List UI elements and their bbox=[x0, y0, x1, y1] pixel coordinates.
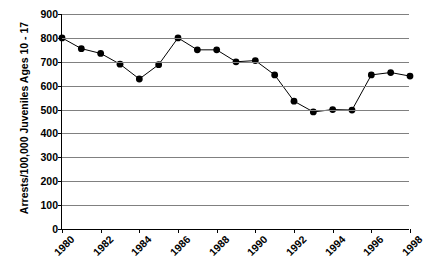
y-tick-label-800: 800 bbox=[22, 32, 58, 44]
x-tick-label-1998: 1998 bbox=[399, 233, 424, 258]
data-point-1982 bbox=[97, 50, 104, 57]
data-point-1981 bbox=[78, 45, 85, 52]
gridline-300 bbox=[62, 157, 409, 158]
gridline-800 bbox=[62, 38, 409, 39]
y-tick-label-700: 700 bbox=[22, 56, 58, 68]
data-point-1990 bbox=[252, 57, 259, 64]
y-tick-label-400: 400 bbox=[22, 127, 58, 139]
x-tick-label-1984: 1984 bbox=[129, 233, 154, 258]
x-tick-label-1982: 1982 bbox=[90, 233, 115, 258]
series-markers bbox=[59, 34, 414, 115]
x-tick-label-1988: 1988 bbox=[206, 233, 231, 258]
data-point-1997 bbox=[387, 69, 394, 76]
data-point-1988 bbox=[213, 46, 220, 53]
gridline-700 bbox=[62, 62, 409, 63]
x-tick-label-1994: 1994 bbox=[322, 233, 347, 258]
gridline-400 bbox=[62, 133, 409, 134]
y-tickmark-200 bbox=[58, 181, 62, 182]
data-point-1984 bbox=[136, 76, 143, 83]
y-tickmark-100 bbox=[58, 205, 62, 206]
data-point-1987 bbox=[194, 46, 201, 53]
y-tick-label-0: 0 bbox=[22, 223, 58, 235]
gridline-500 bbox=[62, 110, 409, 111]
x-tick-label-1986: 1986 bbox=[167, 233, 192, 258]
y-tick-label-300: 300 bbox=[22, 151, 58, 163]
data-point-1991 bbox=[271, 72, 278, 79]
series-line-juvenile-arrest-rate bbox=[62, 14, 410, 229]
y-axis-tick-labels: 9008007006005004003002001000 bbox=[20, 0, 58, 279]
gridline-200 bbox=[62, 181, 409, 182]
y-tickmark-600 bbox=[58, 86, 62, 87]
y-tickmark-800 bbox=[58, 38, 62, 39]
y-tickmark-500 bbox=[58, 110, 62, 111]
x-tick-label-1996: 1996 bbox=[361, 233, 386, 258]
y-tickmark-900 bbox=[58, 14, 62, 15]
y-tickmark-700 bbox=[58, 62, 62, 63]
y-tick-label-500: 500 bbox=[22, 104, 58, 116]
y-tick-label-900: 900 bbox=[22, 8, 58, 20]
gridline-600 bbox=[62, 86, 409, 87]
y-tickmark-400 bbox=[58, 133, 62, 134]
plot-area bbox=[61, 14, 409, 229]
y-tickmark-300 bbox=[58, 157, 62, 158]
gridline-900 bbox=[62, 14, 409, 15]
gridline-100 bbox=[62, 205, 409, 206]
y-tick-label-100: 100 bbox=[22, 199, 58, 211]
y-tick-label-200: 200 bbox=[22, 175, 58, 187]
series-polyline bbox=[62, 38, 410, 112]
x-tick-label-1990: 1990 bbox=[245, 233, 270, 258]
data-point-1996 bbox=[368, 72, 375, 79]
data-point-1992 bbox=[291, 98, 298, 105]
y-tick-label-600: 600 bbox=[22, 80, 58, 92]
x-tickmark-1998 bbox=[410, 229, 411, 233]
x-tick-label-1992: 1992 bbox=[283, 233, 308, 258]
data-point-1998 bbox=[407, 73, 414, 80]
x-axis-tick-labels: 1980198219841986198819901992199419961998 bbox=[61, 229, 409, 279]
